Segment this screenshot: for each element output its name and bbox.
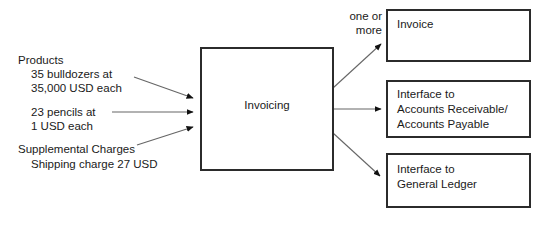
input-pencils-line-1: 23 pencils at: [31, 105, 96, 120]
arrow-invoicing-to-general-ledger: [333, 133, 380, 176]
output-box-interface-general-ledger-line-2: General Ledger: [397, 177, 477, 192]
input-supplemental-heading: Supplemental Charges: [18, 142, 135, 157]
process-box-invoicing-label: Invoicing: [202, 99, 332, 111]
output-box-invoice-line-1: Invoice: [397, 17, 433, 32]
arrow-products-to-invoicing: [134, 77, 193, 98]
input-pencils-line-2: 1 USD each: [31, 119, 93, 134]
input-products-line-2: 35,000 USD each: [31, 81, 122, 96]
input-products-line-1: 35 bulldozers at: [31, 67, 112, 82]
edge-label-one-or-more-line-2: more: [322, 23, 382, 38]
output-box-interface-ar-ap-line-3: Accounts Payable: [397, 117, 489, 132]
diagram-canvas: Products 35 bulldozers at 35,000 USD eac…: [0, 0, 548, 225]
arrow-invoicing-to-invoice: [333, 44, 381, 88]
output-box-interface-general-ledger[interactable]: Interface to General Ledger: [386, 153, 531, 208]
output-box-invoice[interactable]: Invoice: [386, 9, 531, 62]
output-box-interface-general-ledger-line-1: Interface to: [397, 162, 455, 177]
arrow-supplemental-to-invoicing: [137, 127, 193, 145]
input-supplemental-line-1: Shipping charge 27 USD: [31, 157, 158, 172]
output-box-interface-ar-ap-line-2: Accounts Receivable/: [397, 102, 508, 117]
input-products-heading: Products: [18, 53, 63, 68]
output-box-interface-ar-ap-line-1: Interface to: [397, 87, 455, 102]
output-box-interface-ar-ap[interactable]: Interface to Accounts Receivable/ Accoun…: [386, 80, 531, 138]
edge-label-one-or-more-line-1: one or: [322, 9, 382, 24]
process-box-invoicing[interactable]: Invoicing: [200, 47, 334, 171]
